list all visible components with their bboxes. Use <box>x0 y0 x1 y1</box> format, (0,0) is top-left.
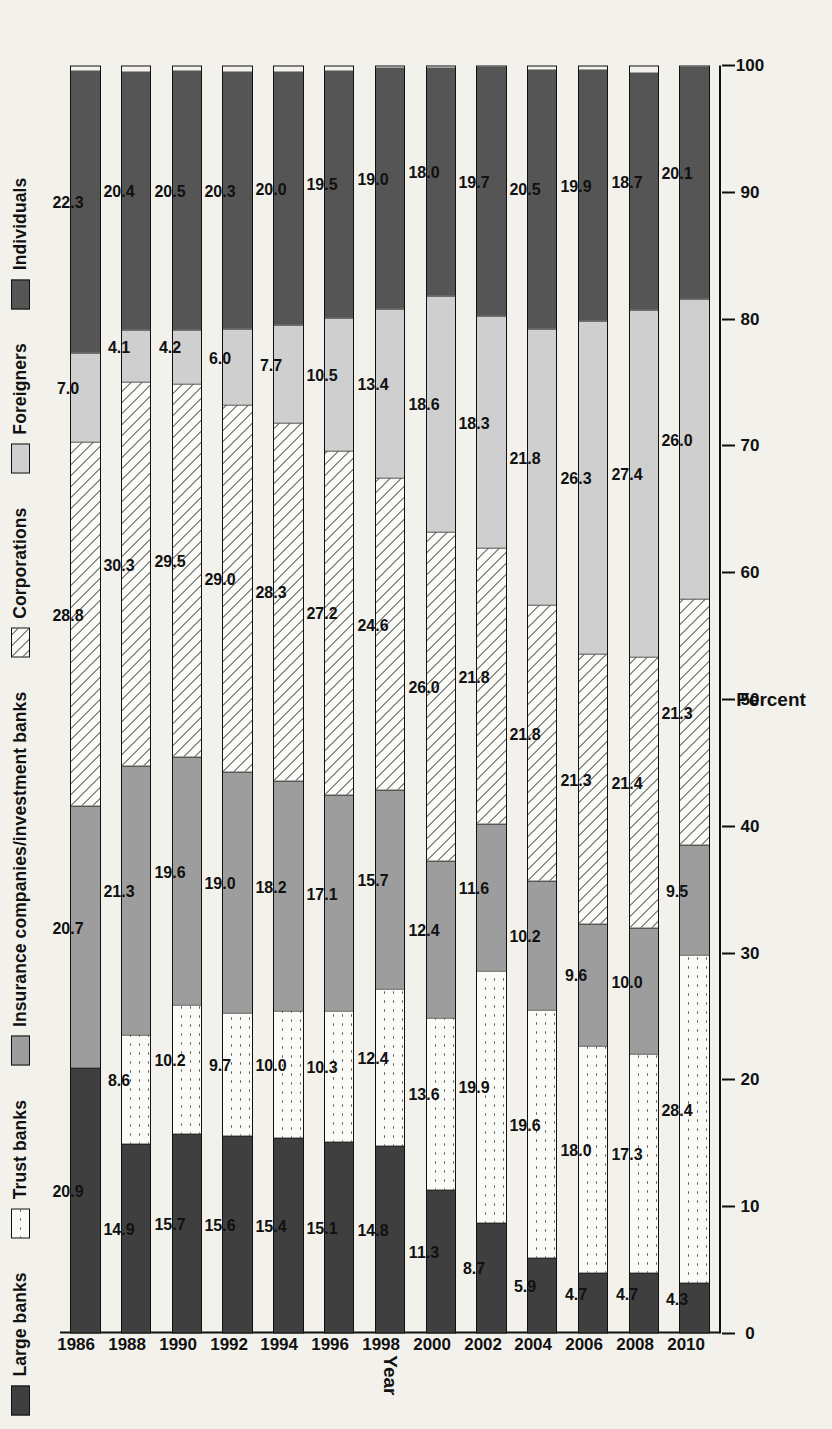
bar-segment: 18.0 <box>579 1045 607 1273</box>
bar-value-label: 15.6 <box>205 1216 236 1234</box>
bar-segment: 20.5 <box>528 69 556 329</box>
bar-segment: 22.3 <box>71 70 99 352</box>
stacked-bar: 14.98.621.330.34.120.4 <box>121 65 151 1333</box>
bar-value-label: 4.2 <box>159 338 181 356</box>
bar-value-label: 4.7 <box>565 1285 587 1303</box>
bar-value-label: 20.3 <box>205 182 236 200</box>
stacked-bar: 14.812.415.724.613.419.0 <box>375 65 405 1333</box>
bar-segment: 27.2 <box>325 450 353 794</box>
bar-segment: 12.4 <box>376 988 404 1145</box>
stacked-bar: 8.719.911.621.818.319.7 <box>476 65 506 1333</box>
bar-value-label: 18.0 <box>408 163 439 181</box>
plot-area: 198620.920.728.87.022.3198814.98.621.330… <box>60 65 720 1333</box>
x-tick <box>722 1332 735 1334</box>
x-tick-label: 60 <box>741 562 760 582</box>
bar-value-label: 20.1 <box>662 164 693 182</box>
legend-swatch-icon <box>11 443 30 473</box>
bar-segment: 10.2 <box>528 880 556 1009</box>
stacked-bar: 4.718.09.621.326.319.9 <box>578 65 608 1333</box>
bar-segment: 6.0 <box>223 328 251 404</box>
bar-segment: 18.6 <box>427 295 455 530</box>
x-tick-label: 20 <box>741 1069 760 1089</box>
y-tick-label: 2008 <box>616 1334 654 1354</box>
bar-value-label: 18.7 <box>611 173 642 191</box>
bar-segment: 28.4 <box>680 954 708 1282</box>
x-tick <box>722 1078 735 1080</box>
legend-label: Individuals <box>10 177 31 270</box>
bar-row: 20028.719.911.621.818.319.7 <box>466 65 517 1333</box>
bar-segment: 10.2 <box>173 1004 201 1133</box>
x-tick <box>722 1205 735 1207</box>
y-tick-label: 1992 <box>210 1334 248 1354</box>
bar-segment: 5.9 <box>528 1257 556 1332</box>
x-tick-label: 30 <box>741 943 760 963</box>
bar-segment: 21.8 <box>528 604 556 880</box>
bar-row: 198814.98.621.330.34.120.4 <box>111 65 162 1333</box>
bar-segment: 18.2 <box>274 780 302 1010</box>
bar-value-label: 8.6 <box>108 1071 130 1089</box>
bar-value-label: 21.3 <box>560 771 591 789</box>
bar-value-label: 15.7 <box>357 871 388 889</box>
legend-swatch-icon <box>11 1385 30 1415</box>
bar-segment: 19.5 <box>325 70 353 317</box>
y-tick-label: 2002 <box>464 1334 502 1354</box>
bar-segment: 7.0 <box>71 352 99 441</box>
bar-row: 199215.69.719.029.06.020.3 <box>212 65 263 1333</box>
bar-value-label: 20.7 <box>53 919 84 937</box>
bar-segment: 19.9 <box>579 69 607 321</box>
y-axis-title: Year <box>60 1355 720 1395</box>
bar-segment: 24.6 <box>376 478 404 789</box>
legend-item-2: Insurance companies/investment banks <box>10 691 31 1065</box>
bar-value-label: 10.2 <box>154 1051 185 1069</box>
bar-segment: 17.1 <box>325 794 353 1010</box>
x-tick <box>722 64 735 66</box>
bar-value-label: 19.9 <box>560 177 591 195</box>
bar-value-label: 15.7 <box>154 1215 185 1233</box>
bar-segment: 11.3 <box>427 1189 455 1332</box>
x-tick <box>722 444 735 446</box>
bar-value-label: 28.4 <box>662 1101 693 1119</box>
stacked-bar: 15.710.219.629.54.220.5 <box>172 65 202 1333</box>
bar-segment: 19.0 <box>376 67 404 308</box>
bar-value-label: 18.3 <box>459 414 490 432</box>
bar-segment: 12.4 <box>427 860 455 1017</box>
bar-value-label: 14.9 <box>103 1220 134 1238</box>
bar-value-label: 15.1 <box>306 1219 337 1237</box>
bar-value-label: 29.5 <box>154 552 185 570</box>
bar-value-label: 9.6 <box>565 966 587 984</box>
bar-value-label: 15.4 <box>256 1217 287 1235</box>
bar-value-label: 21.8 <box>509 449 540 467</box>
bar-segment: 9.6 <box>579 923 607 1045</box>
bar-value-label: 10.0 <box>256 1056 287 1074</box>
bar-segment: 4.3 <box>680 1282 708 1332</box>
bar-value-label: 27.2 <box>306 604 337 622</box>
bar-value-label: 21.3 <box>662 704 693 722</box>
legend-swatch-icon <box>11 1208 30 1238</box>
bar-segment: 17.3 <box>630 1053 658 1272</box>
bar-segment: 10.3 <box>325 1010 353 1140</box>
bar-value-label: 26.0 <box>662 431 693 449</box>
bar-value-label: 18.0 <box>560 1141 591 1159</box>
y-tick-label: 1990 <box>159 1334 197 1354</box>
bar-value-label: 7.0 <box>57 379 79 397</box>
x-tick-label: 90 <box>741 182 760 202</box>
bar-value-label: 24.6 <box>357 616 388 634</box>
x-tick <box>722 318 735 320</box>
legend-label: Foreigners <box>10 343 31 434</box>
bar-value-label: 11.3 <box>408 1243 438 1261</box>
bar-segment: 4.7 <box>579 1273 607 1333</box>
bar-segment: 19.0 <box>223 771 251 1012</box>
bar-row: 199415.410.018.228.37.720.0 <box>263 65 314 1333</box>
bar-value-label: 10.3 <box>306 1058 337 1076</box>
bar-rows: 198620.920.728.87.022.3198814.98.621.330… <box>60 65 720 1333</box>
bar-segment: 19.6 <box>173 756 201 1004</box>
bar-value-label: 4.1 <box>108 338 130 356</box>
bar-value-label: 6.0 <box>209 349 231 367</box>
legend-item-0: Large banks <box>10 1272 31 1415</box>
y-tick-label: 1988 <box>108 1334 146 1354</box>
bar-value-label: 12.4 <box>357 1049 388 1067</box>
bar-segment: 21.8 <box>477 547 505 823</box>
y-tick-label: 1994 <box>261 1334 299 1354</box>
bar-value-label: 21.8 <box>509 725 540 743</box>
bar-segment: 20.1 <box>680 66 708 298</box>
